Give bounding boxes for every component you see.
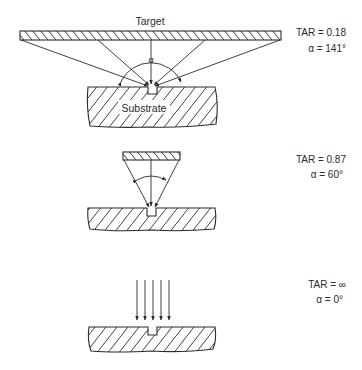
alpha-value-3: α = 0° (316, 294, 343, 305)
panel-narrow-target: TAR = 0.87 α = 60° (88, 152, 347, 231)
alpha-arc-2 (137, 176, 166, 180)
alpha-symbol: α (148, 55, 153, 65)
tar-value-3: TAR = ∞ (308, 279, 346, 290)
alpha-value-1: α = 141° (308, 43, 346, 54)
target-plate (20, 31, 281, 40)
substrate-2 (88, 208, 216, 231)
substrate-label: Substrate (122, 102, 167, 114)
target-plate-small (123, 152, 180, 160)
target-label: Target (135, 15, 164, 27)
tar-value-2: TAR = 0.87 (296, 154, 347, 165)
substrate-3 (88, 327, 215, 352)
alpha-value-2: α = 60° (311, 169, 343, 180)
tar-value-1: TAR = 0.18 (296, 27, 347, 38)
panel-collimated: TAR = ∞ α = 0° (88, 279, 346, 352)
parallel-flux-arrows (137, 280, 169, 320)
panel-wide-target: Target α Substrate TAR = 0.18 α = 141° (20, 15, 346, 127)
deposition-geometry-diagram: Target α Substrate TAR = 0.18 α = 141° T… (0, 0, 362, 370)
